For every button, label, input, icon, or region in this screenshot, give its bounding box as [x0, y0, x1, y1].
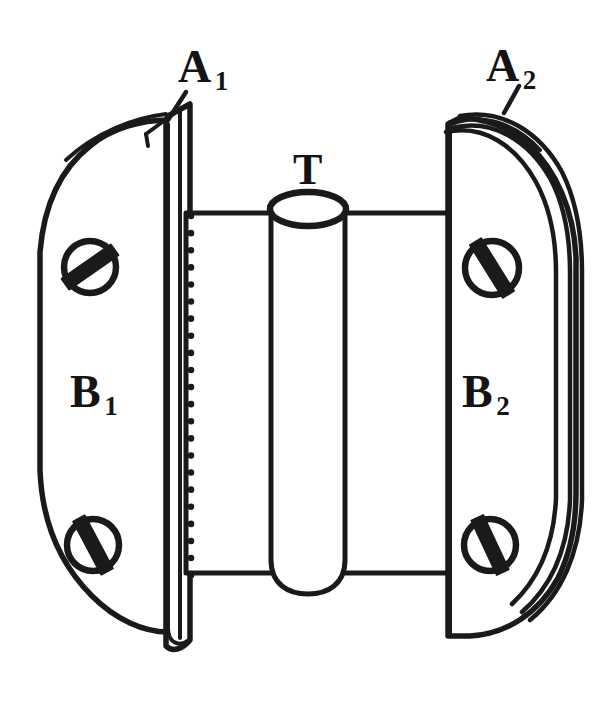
label-a1-sub: 1: [212, 66, 229, 96]
screw-top-left[interactable]: [62, 241, 119, 293]
core-cylinder-barrel: [271, 212, 345, 594]
label-b2-main: B: [462, 366, 493, 417]
screw-bottom-left[interactable]: [67, 516, 119, 575]
label-a1-main: A: [178, 41, 212, 92]
label-b2: B2: [462, 369, 510, 420]
label-t-main: T: [293, 145, 323, 194]
label-a2: A2: [486, 43, 536, 94]
label-b1-main: B: [70, 366, 101, 417]
technical-drawing-svg: [0, 0, 611, 717]
left-strip-top-notch: [146, 134, 148, 146]
screw-bottom-right[interactable]: [464, 515, 516, 575]
figure-canvas: A1 A2 T B1 B2: [0, 0, 611, 717]
screw-top-right[interactable]: [465, 238, 519, 297]
label-a2-main: A: [486, 40, 520, 91]
core-cylinder-group: [270, 192, 346, 594]
label-b1: B1: [70, 369, 118, 420]
label-a1: A1: [178, 44, 228, 95]
label-a2-sub: 2: [520, 65, 537, 95]
label-b1-sub: 1: [101, 391, 118, 421]
label-b2-sub: 2: [493, 391, 510, 421]
core-cylinder-top-ellipse: [270, 192, 346, 226]
label-t: T: [293, 148, 323, 192]
